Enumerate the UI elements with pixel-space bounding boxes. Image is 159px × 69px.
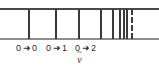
spectral-line <box>119 9 121 39</box>
transition-arrow-icon: ➜ <box>52 41 63 55</box>
tick-label: 0➜1 <box>46 41 68 55</box>
axis-symbol: ~ v <box>0 54 159 66</box>
transition-arrow-icon: ➜ <box>81 41 92 55</box>
tick-upper-state: 2 <box>91 43 97 53</box>
wavenumber-glyph: ~ v <box>77 54 81 66</box>
tilde-accent: ~ <box>77 48 82 57</box>
transition-arrow-icon: ➜ <box>22 41 33 55</box>
spectral-line <box>28 9 30 39</box>
spectral-line-diagram: 0➜00➜10➜2 ~ v <box>0 0 159 69</box>
spectral-line <box>100 9 102 39</box>
tick-upper-state: 0 <box>32 43 38 53</box>
spectral-line <box>126 9 128 39</box>
spectral-line <box>78 9 80 39</box>
spectral-line <box>123 9 125 39</box>
spectral-line <box>55 9 57 39</box>
convergence-limit-line <box>131 9 133 39</box>
spectral-line <box>112 9 114 39</box>
tick-label: 0➜0 <box>16 41 38 55</box>
tick-upper-state: 1 <box>62 43 68 53</box>
